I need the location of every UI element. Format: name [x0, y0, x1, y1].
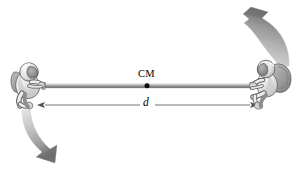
motion-arrow-up [243, 7, 289, 67]
motion-arrow-down [22, 110, 57, 163]
distance-label: d [143, 97, 149, 109]
astronaut-right [249, 60, 291, 109]
center-of-mass-label: CM [138, 69, 155, 80]
figure-canvas [0, 0, 299, 176]
physics-figure-two-astronauts-center-of-mass: CM d [0, 0, 299, 176]
center-of-mass-dot [145, 83, 150, 88]
astronaut-left [11, 63, 45, 109]
